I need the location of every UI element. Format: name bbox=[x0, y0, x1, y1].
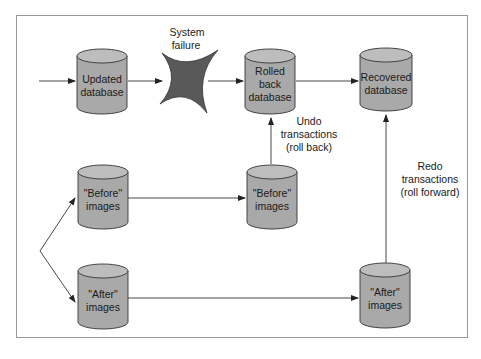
failure-label-2: failure bbox=[172, 39, 201, 51]
undo-label-3: (roll back) bbox=[286, 141, 332, 153]
system-failure-icon bbox=[160, 50, 218, 113]
recovered-db-label-2: database bbox=[364, 84, 407, 96]
arrow-branch-to-after bbox=[40, 251, 75, 302]
redo-label-3: (roll forward) bbox=[401, 186, 460, 198]
after-src-label-1: "After" bbox=[88, 288, 118, 300]
rolled-back-label-1: Rolled bbox=[255, 65, 285, 77]
updated-db-label-2: database bbox=[80, 86, 123, 98]
failure-label-1: System bbox=[169, 26, 204, 38]
undo-label-2: transactions bbox=[281, 128, 338, 140]
recovered-db-label-1: Recovered bbox=[361, 71, 412, 83]
updated-db-label-1: Updated bbox=[82, 73, 122, 85]
before-dst-label-1: "Before" bbox=[253, 187, 292, 199]
after-dst-label-2: images bbox=[368, 299, 402, 311]
redo-label-2: transactions bbox=[402, 173, 459, 185]
before-src-label-1: "Before" bbox=[84, 187, 123, 199]
after-dst-label-1: "After" bbox=[370, 286, 400, 298]
undo-label-1: Undo bbox=[296, 115, 321, 127]
redo-label-1: Redo bbox=[417, 160, 442, 172]
before-src-label-2: images bbox=[86, 200, 120, 212]
rolled-back-label-2: back bbox=[259, 78, 282, 90]
after-src-label-2: images bbox=[86, 301, 120, 313]
rolled-back-label-3: database bbox=[248, 91, 291, 103]
arrow-branch-to-before bbox=[40, 198, 75, 251]
recovery-diagram: System failure Updated database Rolled b… bbox=[0, 0, 481, 359]
before-dst-label-2: images bbox=[255, 200, 289, 212]
